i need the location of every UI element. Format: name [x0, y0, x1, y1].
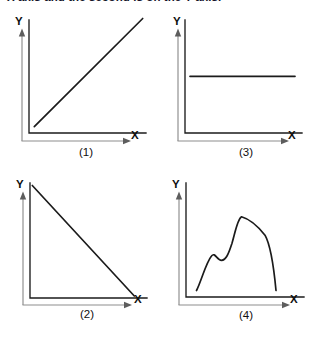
x-axis-label: X: [131, 129, 139, 141]
axes-lines: [186, 183, 304, 297]
graph-2-svg: Y X (2): [0, 178, 158, 340]
y-axis-label: Y: [172, 178, 180, 190]
axes-lines: [29, 20, 146, 133]
plot-curve-2: [32, 186, 134, 297]
figure-page: X axis and the second is on the Y axis. …: [0, 0, 316, 341]
graph-3-svg: Y X (3): [158, 14, 316, 176]
graph-1-svg: Y X (1): [0, 14, 158, 176]
graph-panel-grid: Y X (1) Y X (3): [0, 14, 316, 340]
x-axis-label: X: [134, 293, 142, 305]
up-arrow-icon: [176, 192, 182, 200]
graph-panel-3[interactable]: Y X (3): [158, 14, 316, 176]
up-arrow-icon: [20, 192, 26, 200]
y-axis-label: Y: [173, 15, 181, 27]
axes-lines: [30, 183, 147, 298]
y-axis-label: Y: [15, 15, 23, 27]
panel-caption-3: (3): [239, 146, 253, 158]
y-axis-label: Y: [16, 178, 24, 190]
x-axis-label: X: [288, 129, 296, 141]
question-text: X axis and the second is on the Y axis.: [7, 0, 221, 3]
up-arrow-icon: [175, 29, 181, 37]
graph-panel-4[interactable]: Y X (4): [158, 178, 316, 340]
right-arrow-icon: [124, 302, 132, 309]
panel-caption-1: (1): [79, 146, 93, 158]
x-axis-label: X: [290, 293, 298, 305]
panel-caption-2: (2): [80, 308, 94, 320]
graph-panel-1[interactable]: Y X (1): [0, 14, 158, 176]
up-arrow-icon: [19, 29, 25, 37]
graph-panel-2[interactable]: Y X (2): [0, 178, 158, 340]
right-arrow-icon: [123, 138, 131, 145]
plot-curve-1: [34, 19, 142, 127]
graph-4-svg: Y X (4): [158, 178, 316, 340]
right-arrow-icon: [282, 302, 290, 309]
panel-caption-4: (4): [239, 309, 253, 321]
plot-curve-4: [197, 217, 277, 291]
question-text-strip: X axis and the second is on the Y axis.: [0, 0, 316, 10]
